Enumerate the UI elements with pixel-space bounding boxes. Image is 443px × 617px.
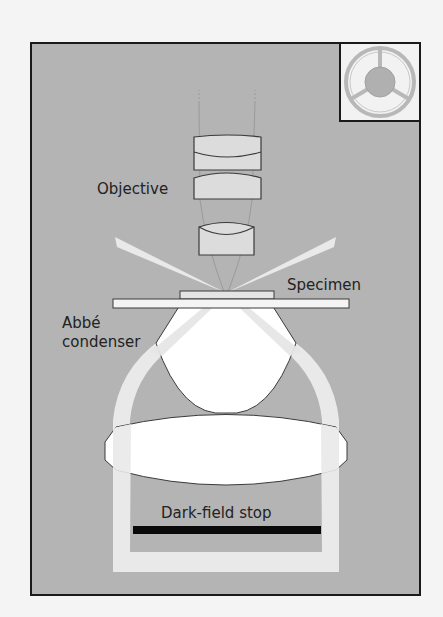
objective-lens-stack [194,135,261,255]
condenser-lower-lens [105,415,347,486]
dark-field-stop-bar [133,526,321,534]
condenser-label-line1: Abbé [62,314,101,332]
inset-stop-top-view [340,43,420,121]
objective-label: Objective [97,180,168,198]
condenser-label-line2: condenser [62,333,141,351]
dark-field-stop-label: Dark-field stop [161,504,272,522]
dark-field-microscope-diagram: Objective Specimen Abbé condenser Dark-f… [0,0,443,617]
specimen-label: Specimen [287,276,361,294]
